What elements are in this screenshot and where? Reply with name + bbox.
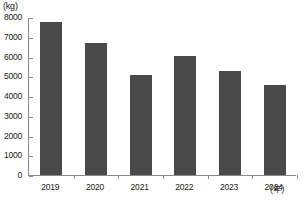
x-axis-tick-mark xyxy=(297,175,298,179)
x-axis-tick-mark xyxy=(74,175,75,179)
y-axis-tick-label: 3000 xyxy=(0,111,22,121)
x-axis-tick-label: 2020 xyxy=(73,182,118,192)
bar-slot xyxy=(74,17,119,175)
x-axis-tick-label: 2019 xyxy=(28,182,73,192)
bar-slot xyxy=(118,17,163,175)
bar xyxy=(40,22,62,175)
x-axis-unit-label: (年) xyxy=(270,182,284,194)
bar-slot xyxy=(252,17,297,175)
bar xyxy=(264,85,286,175)
y-axis-tick-label: 6000 xyxy=(0,52,22,62)
y-axis-unit-label: (kg) xyxy=(3,1,18,11)
plot-area: 010002000300040005000600070008000 xyxy=(28,18,296,176)
bar-slot xyxy=(163,17,208,175)
x-axis-tick-mark xyxy=(163,175,164,179)
y-axis-tick-label: 0 xyxy=(0,170,22,180)
bar xyxy=(130,75,152,175)
bar-slot xyxy=(29,17,74,175)
y-axis-tick-label: 4000 xyxy=(0,91,22,101)
x-axis-tick-mark xyxy=(208,175,209,179)
y-axis-tick-label: 5000 xyxy=(0,71,22,81)
y-axis-tick-mark xyxy=(29,176,33,177)
x-axis-tick-label: 2022 xyxy=(162,182,207,192)
bar xyxy=(219,71,241,175)
x-axis-tick-mark xyxy=(252,175,253,179)
y-axis-tick-label: 2000 xyxy=(0,131,22,141)
x-axis-tick-label: 2021 xyxy=(117,182,162,192)
y-axis-tick-label: 7000 xyxy=(0,32,22,42)
y-axis-tick-label: 1000 xyxy=(0,150,22,160)
x-axis-tick-label: 2023 xyxy=(207,182,252,192)
y-axis-tick-label: 8000 xyxy=(0,12,22,22)
bar xyxy=(85,43,107,175)
bar xyxy=(174,56,196,175)
x-axis-tick-mark xyxy=(118,175,119,179)
bar-chart: (kg) 010002000300040005000600070008000 2… xyxy=(0,0,304,202)
bar-slot xyxy=(208,17,253,175)
